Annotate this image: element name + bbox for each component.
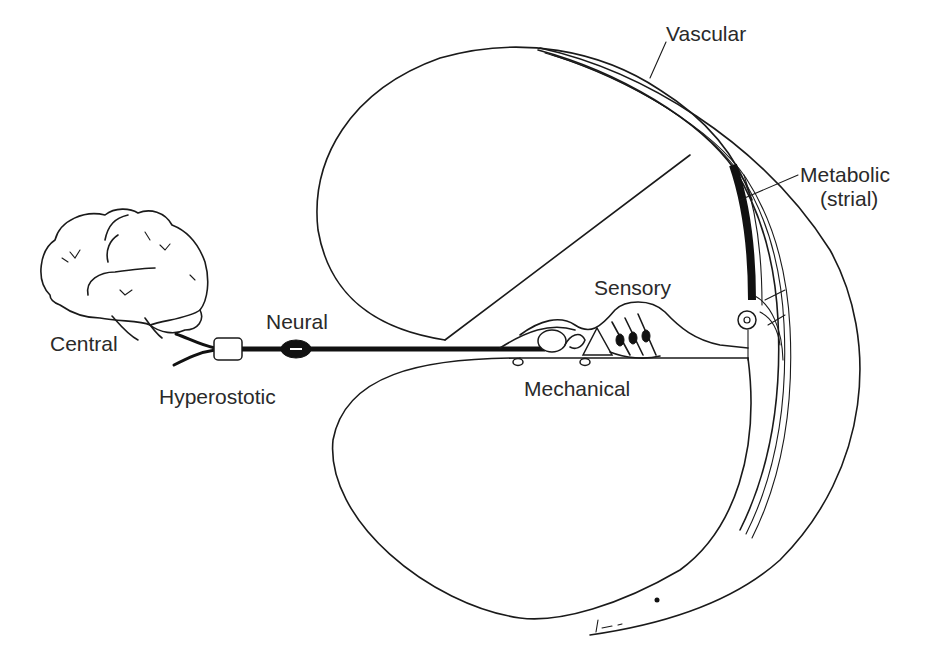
spiral-ligament-ring [738, 311, 756, 329]
brain-icon [41, 209, 208, 340]
cochlea-diagram [0, 0, 926, 647]
label-hyperostotic: Hyperostotic [159, 385, 276, 408]
label-mechanical: Mechanical [524, 377, 630, 400]
label-vascular: Vascular [666, 22, 746, 45]
lateral-wall [538, 48, 860, 635]
organ-of-corti [500, 302, 748, 366]
reissners-membrane [445, 155, 690, 340]
vascular-leader-line [650, 42, 666, 78]
stria-vascularis [733, 165, 752, 300]
label-sensory: Sensory [594, 276, 671, 299]
label-metabolic: Metabolic [800, 163, 890, 186]
label-neural: Neural [266, 310, 328, 333]
label-metabolic-strial: (strial) [820, 187, 878, 210]
label-central: Central [50, 332, 118, 355]
hair-cells [612, 314, 656, 355]
scala-vestibuli [317, 47, 752, 340]
auditory-nerve [174, 334, 545, 365]
hyperostotic-constriction [214, 338, 242, 360]
